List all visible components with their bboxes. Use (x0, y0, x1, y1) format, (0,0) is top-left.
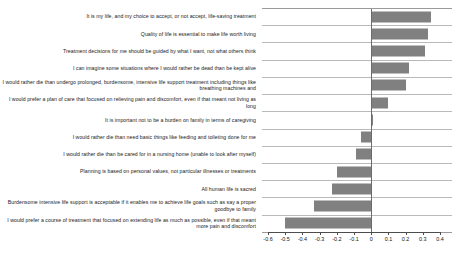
axis-tick-label: -0.1 (349, 236, 358, 243)
axis-tick (302, 232, 303, 235)
category-label: Burdensome intensive life support is acc… (0, 199, 262, 212)
zero-reference-line (371, 8, 372, 232)
axis-tick (388, 232, 389, 235)
bar (371, 28, 428, 39)
category-label: I would rather die than need basic thing… (0, 134, 262, 141)
bar (314, 201, 371, 212)
category-label: Treatment decisions for me should be gui… (0, 48, 262, 55)
gridline (262, 146, 452, 147)
category-label: I would prefer a plan of care that focus… (0, 96, 262, 109)
bar (337, 166, 371, 177)
bar (371, 63, 409, 74)
bar (361, 132, 371, 143)
row-plot-area (262, 77, 452, 94)
chart-row: I would prefer a course of treatment tha… (0, 215, 452, 232)
row-plot-area (262, 94, 452, 111)
axis-tick-label: 0.3 (419, 236, 427, 243)
bar (285, 218, 371, 229)
row-plot-area (262, 8, 452, 25)
row-plot-area (262, 60, 452, 77)
axis-tick-label: 0 (370, 236, 373, 243)
axis-tick (320, 232, 321, 235)
axis-tick-label: -0.6 (263, 236, 272, 243)
gridline (262, 111, 452, 112)
x-axis: -0.6-0.5-0.4-0.3-0.2-0.100.10.20.30.4 (0, 232, 452, 257)
chart-row: I would rather die than be cared for in … (0, 146, 452, 163)
category-label: I would prefer a course of treatment tha… (0, 217, 262, 230)
axis-tick (337, 232, 338, 235)
category-label: It is important not to be a burden on fa… (0, 117, 262, 124)
gridline (262, 215, 452, 216)
axis-tick (268, 232, 269, 235)
gridline (262, 77, 452, 78)
chart-row: Planning is based on personal values, no… (0, 163, 452, 180)
bar (332, 183, 372, 194)
chart-row: I can imagine some situations where I wo… (0, 60, 452, 77)
chart-row: Burdensome intensive life support is acc… (0, 197, 452, 214)
chart-row: All human life is sacred (0, 180, 452, 197)
gridline (262, 60, 452, 61)
gridline (262, 94, 452, 95)
axis-tick-label: 0.4 (436, 236, 444, 243)
axis-tick (440, 232, 441, 235)
category-label: Quality of life is essential to make lif… (0, 31, 262, 38)
row-plot-area (262, 111, 452, 128)
axis-tick-label: -0.4 (298, 236, 307, 243)
axis-tick-label: -0.2 (332, 236, 341, 243)
gridline (262, 180, 452, 181)
chart-row: I would rather die than undergo prolonge… (0, 77, 452, 94)
chart-row: It is my life, and my choice to accept, … (0, 8, 452, 25)
axis-tick-label: -0.5 (281, 236, 290, 243)
chart-row: I would rather die than need basic thing… (0, 129, 452, 146)
axis-tick (406, 232, 407, 235)
horizontal-bar-chart: It is my life, and my choice to accept, … (0, 0, 452, 257)
row-plot-area (262, 215, 452, 232)
bar (371, 97, 388, 108)
category-label: It is my life, and my choice to accept, … (0, 13, 262, 20)
gridline (262, 42, 452, 43)
axis-tick (285, 232, 286, 235)
category-label: I would rather die than undergo prolonge… (0, 79, 262, 92)
axis-tick (354, 232, 355, 235)
gridline (262, 129, 452, 130)
bar (356, 149, 371, 160)
gridline (262, 197, 452, 198)
plot-frame-top (262, 8, 452, 9)
bar (371, 11, 431, 22)
category-label: I would rather die than be cared for in … (0, 151, 262, 158)
chart-row: I would prefer a plan of care that focus… (0, 94, 452, 111)
row-plot-area (262, 129, 452, 146)
gridline (262, 25, 452, 26)
chart-row: Treatment decisions for me should be gui… (0, 42, 452, 59)
category-label: I can imagine some situations where I wo… (0, 65, 262, 72)
axis-tick-label: 0.2 (402, 236, 410, 243)
row-plot-area (262, 180, 452, 197)
chart-rows-area: It is my life, and my choice to accept, … (0, 8, 452, 232)
gridline (262, 163, 452, 164)
bar (371, 80, 405, 91)
row-plot-area (262, 146, 452, 163)
axis-tick-label: -0.3 (315, 236, 324, 243)
chart-row: It is important not to be a burden on fa… (0, 111, 452, 128)
row-plot-area (262, 25, 452, 42)
axis-tick (423, 232, 424, 235)
category-label: Planning is based on personal values, no… (0, 168, 262, 175)
axis-tick (371, 232, 372, 235)
row-plot-area (262, 163, 452, 180)
category-label: All human life is sacred (0, 186, 262, 193)
row-plot-area (262, 42, 452, 59)
axis-tick-label: 0.1 (385, 236, 393, 243)
chart-row: Quality of life is essential to make lif… (0, 25, 452, 42)
row-plot-area (262, 197, 452, 214)
bar (371, 46, 424, 57)
